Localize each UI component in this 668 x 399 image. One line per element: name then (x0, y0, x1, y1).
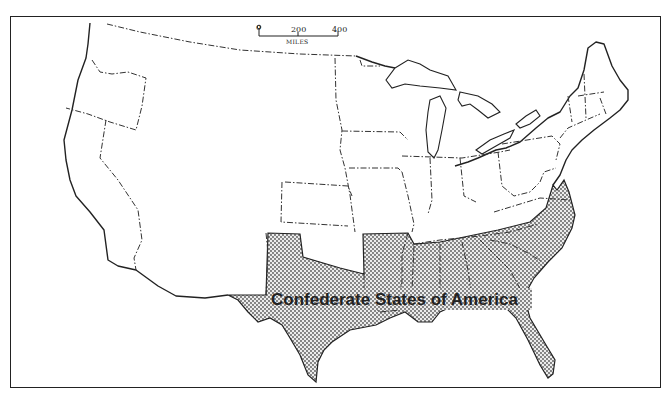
scale-tick-0: 0 (256, 23, 261, 32)
scale-units: MILES (286, 38, 309, 45)
scale-bar: 0 200 400 MILES (256, 23, 347, 45)
us-map: 0 200 400 MILES Confederate States of Am… (0, 0, 668, 399)
scale-tick-200: 200 (291, 25, 306, 34)
scale-tick-400: 400 (332, 25, 347, 34)
region-label: Confederate States of America (271, 290, 518, 309)
